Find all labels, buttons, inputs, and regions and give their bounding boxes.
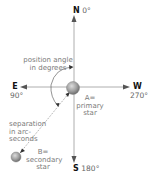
west-arrow-icon — [123, 85, 130, 90]
secondary-line3: star — [26, 164, 60, 172]
east-letter: E — [12, 82, 17, 91]
secondary-star — [11, 152, 21, 162]
east-angle: 90° — [10, 91, 23, 100]
south-arrow-icon — [72, 156, 77, 163]
primary-star — [67, 82, 80, 95]
west-letter: W — [133, 82, 142, 91]
north-angle: 0° — [82, 6, 91, 15]
east-label: E — [8, 82, 22, 91]
south-label: S 180° — [73, 164, 99, 173]
north-label: N 0° — [73, 6, 91, 15]
south-letter: S — [73, 164, 79, 173]
north-arrow-icon — [72, 15, 77, 22]
separation-line3: seconds — [9, 136, 46, 144]
north-letter: N — [73, 6, 80, 15]
primary-line3: star — [76, 110, 104, 118]
secondary-star-label: B= secondary star — [26, 149, 60, 172]
west-angle: 270° — [130, 91, 148, 100]
position-angle-label: position angle in degrees — [20, 57, 76, 72]
separation-arrow-b-icon — [20, 149, 25, 154]
primary-star-label: A= primary star — [76, 95, 104, 118]
south-angle: 180° — [81, 164, 99, 173]
separation-label: separation in arc- seconds — [9, 121, 46, 144]
position-angle-line2: in degrees — [20, 65, 76, 73]
west-label: W — [133, 82, 142, 91]
